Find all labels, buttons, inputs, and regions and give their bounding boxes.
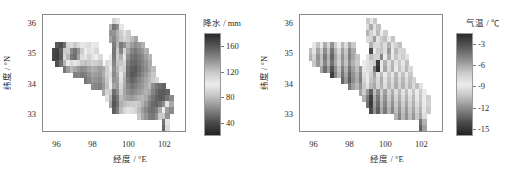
x-tick-mark	[350, 131, 351, 132]
x-tick-mark	[386, 131, 387, 132]
colorbar-gradient-temperature	[456, 33, 473, 136]
y-tick-label: 33	[285, 109, 294, 119]
colorbar-tick-label: -9	[478, 81, 485, 91]
colorbar-tick-mark	[221, 46, 224, 47]
raster-precipitation	[43, 15, 185, 131]
x-tick-label: 102	[415, 139, 428, 149]
raster-temperature	[300, 15, 442, 131]
colorbar-tick-label: 160	[226, 41, 239, 51]
y-tick-label: 34	[28, 79, 37, 89]
colorbar-tick-mark	[473, 129, 476, 130]
colorbar-tick-label: 120	[226, 67, 239, 77]
figure-root: 36353433 9698100102 纬度 / °N 经度 / °E 降水 /…	[0, 0, 514, 174]
colorbar-gradient-precipitation	[204, 33, 221, 136]
y-tick-label: 36	[285, 18, 294, 28]
colorbar-tick-mark	[221, 97, 224, 98]
colorbar-title-temperature: 气温 / ℃	[466, 16, 500, 28]
y-tick-label: 36	[28, 18, 37, 28]
colorbar-tick-label: 40	[226, 118, 235, 128]
x-tick-label: 102	[158, 139, 171, 149]
y-tick-mark	[299, 54, 300, 55]
y-axis-title-precipitation: 纬度 / °N	[0, 56, 12, 90]
x-tick-label: 96	[309, 139, 318, 149]
colorbar-tick-mark	[473, 108, 476, 109]
x-tick-label: 100	[379, 139, 392, 149]
colorbar-tick-mark	[473, 44, 476, 45]
y-tick-mark	[42, 24, 43, 25]
x-axis-title-temperature: 经度 / °E	[370, 152, 403, 164]
y-tick-label: 33	[28, 109, 37, 119]
y-axis-title-temperature: 纬度 / °N	[257, 56, 269, 90]
y-tick-label: 34	[285, 79, 294, 89]
x-axis-title-precipitation: 经度 / °E	[113, 152, 146, 164]
x-tick-label: 98	[345, 139, 354, 149]
x-tick-label: 100	[122, 139, 135, 149]
panel-temperature: 36353433 9698100102 纬度 / °N 经度 / °E 气温 /…	[257, 0, 514, 174]
y-tick-label: 35	[285, 48, 294, 58]
colorbar-tick-mark	[473, 86, 476, 87]
colorbar-tick-label: -3	[478, 39, 485, 49]
colorbar-title-precipitation: 降水 / mm	[203, 16, 241, 28]
x-tick-mark	[93, 131, 94, 132]
y-tick-mark	[299, 85, 300, 86]
y-tick-mark	[299, 24, 300, 25]
x-tick-mark	[57, 131, 58, 132]
plot-area-precipitation	[42, 14, 186, 132]
colorbar-tick-mark	[221, 123, 224, 124]
x-tick-label: 96	[52, 139, 61, 149]
y-tick-label: 35	[28, 48, 37, 58]
x-tick-label: 98	[88, 139, 97, 149]
x-tick-mark	[314, 131, 315, 132]
colorbar-tick-label: -12	[478, 103, 489, 113]
colorbar-tick-mark	[473, 65, 476, 66]
x-tick-mark	[129, 131, 130, 132]
x-tick-mark	[422, 131, 423, 132]
plot-area-temperature	[299, 14, 443, 132]
y-tick-mark	[42, 54, 43, 55]
x-tick-mark	[165, 131, 166, 132]
colorbar-tick-label: -15	[478, 124, 489, 134]
colorbar-tick-mark	[221, 72, 224, 73]
y-tick-mark	[42, 115, 43, 116]
panel-precipitation: 36353433 9698100102 纬度 / °N 经度 / °E 降水 /…	[0, 0, 257, 174]
colorbar-tick-label: 80	[226, 92, 235, 102]
y-tick-mark	[42, 85, 43, 86]
y-tick-mark	[299, 115, 300, 116]
colorbar-tick-label: -6	[478, 60, 485, 70]
